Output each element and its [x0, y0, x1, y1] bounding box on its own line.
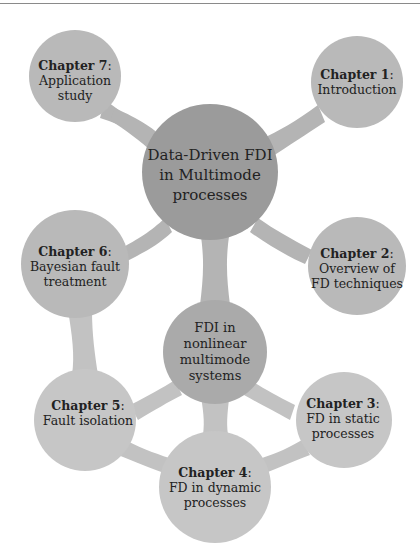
node-ch4-label: Chapter 4: FD in dynamic processes: [169, 465, 261, 510]
subroot-line-4: systems: [180, 368, 250, 384]
node-text-line: Bayesian fault: [30, 259, 120, 274]
root-label: Data-Driven FDI in Multimode processes: [147, 145, 272, 205]
subroot-line-3: multimode: [180, 352, 250, 368]
chapter-heading: Chapter 1: [320, 67, 389, 82]
chapter-heading: Chapter 6: [38, 244, 107, 259]
subroot-label: FDI in nonlinear multimode systems: [180, 320, 250, 384]
node-text-line: FD in static: [306, 411, 380, 426]
node-text-line: Introduction: [317, 82, 396, 97]
root-line-2: in Multimode: [147, 165, 272, 185]
node-text-line: Application: [38, 73, 111, 88]
node-text-line: Overview of: [311, 261, 403, 276]
root-line-3: processes: [147, 185, 272, 205]
node-text-line: processes: [306, 426, 380, 441]
node-ch1-label: Chapter 1: Introduction: [317, 67, 396, 97]
subroot-line-1: FDI in: [180, 320, 250, 336]
chapter-heading: Chapter 2: [320, 246, 389, 261]
node-text-line: processes: [169, 495, 261, 510]
node-ch7-label: Chapter 7: Application study: [38, 58, 111, 103]
node-text-line: study: [38, 88, 111, 103]
node-text-line: Fault isolation: [43, 413, 133, 428]
node-ch2-label: Chapter 2: Overview of FD techniques: [311, 246, 403, 291]
node-ch6-label: Chapter 6: Bayesian fault treatment: [30, 244, 120, 289]
chapter-heading: Chapter 3: [306, 396, 375, 411]
node-ch3-label: Chapter 3: FD in static processes: [306, 396, 380, 441]
node-text-line: treatment: [30, 274, 120, 289]
node-text-line: FD in dynamic: [169, 480, 261, 495]
chapter-heading: Chapter 5: [51, 398, 120, 413]
chapter-heading: Chapter 4: [178, 465, 247, 480]
chapter-heading: Chapter 7: [38, 58, 107, 73]
subroot-line-2: nonlinear: [180, 336, 250, 352]
node-text-line: FD techniques: [311, 276, 403, 291]
node-ch5-label: Chapter 5: Fault isolation: [43, 398, 133, 428]
root-line-1: Data-Driven FDI: [147, 145, 272, 165]
